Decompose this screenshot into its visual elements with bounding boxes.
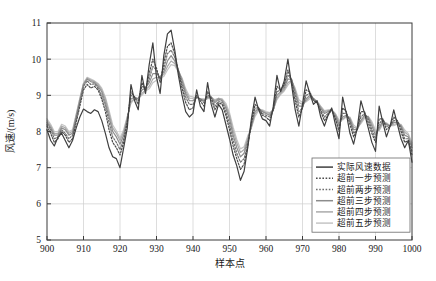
legend-label-2: 超前一步预测 (337, 172, 391, 183)
y-tick-label: 7 (36, 163, 41, 173)
x-tick-label: 960 (259, 244, 274, 254)
x-tick-label: 1000 (403, 244, 422, 254)
x-axis-title: 样本点 (215, 257, 245, 269)
x-tick-label: 970 (295, 244, 310, 254)
y-tick-label: 8 (36, 127, 41, 137)
legend-label-3: 超前两步预测 (337, 184, 391, 195)
x-tick-label: 980 (332, 244, 347, 254)
x-tick-label: 940 (186, 244, 201, 254)
x-tick-label: 910 (76, 244, 91, 254)
x-tick-label: 950 (222, 244, 237, 254)
chart-svg: 5678910119009109209309409509609709809901… (0, 0, 436, 281)
legend-label-5: 超前四步预测 (337, 206, 391, 217)
y-tick-label: 10 (32, 55, 42, 65)
x-tick-label: 920 (113, 244, 128, 254)
wind-speed-forecast-chart: 5678910119009109209309409509609709809901… (0, 0, 436, 281)
x-tick-label: 990 (368, 244, 383, 254)
x-tick-label: 930 (149, 244, 164, 254)
legend-label-4: 超前三步预测 (337, 195, 391, 206)
x-tick-label: 900 (40, 244, 55, 254)
y-tick-label: 9 (36, 91, 41, 101)
chart-legend: 实际风速数据超前一步预测超前两步预测超前三步预测超前四步预测超前五步预测 (312, 158, 410, 232)
y-tick-label: 11 (32, 18, 41, 28)
y-axis-title: 风速/(m/s) (5, 110, 17, 154)
legend-label-6: 超前五步预测 (337, 217, 391, 228)
legend-label-1: 实际风速数据 (337, 161, 391, 172)
y-tick-label: 6 (36, 199, 41, 209)
